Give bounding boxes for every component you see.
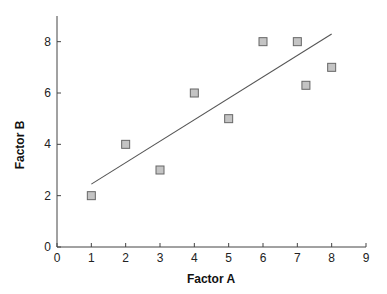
data-points [87,38,335,200]
x-axis-title: Factor A [187,272,236,286]
x-tick-label: 1 [88,251,95,265]
x-tick-label: 4 [191,251,198,265]
y-axis-title: Factor B [13,120,27,169]
y-tick-label: 0 [44,240,51,254]
x-tick-label: 3 [157,251,164,265]
scatter-chart: 012345678902468 Factor A Factor B [0,0,387,294]
trend-line [91,34,331,184]
regression-line [91,34,331,184]
x-tick-label: 2 [122,251,129,265]
data-point-marker [259,38,267,46]
data-point-marker [328,63,336,71]
y-tick-label: 4 [44,137,51,151]
x-tick-label: 8 [328,251,335,265]
x-tick-label: 7 [294,251,301,265]
data-point-marker [156,166,164,174]
x-tick-label: 6 [260,251,267,265]
x-tick-label: 9 [363,251,370,265]
x-tick-label: 5 [225,251,232,265]
y-tick-label: 6 [44,86,51,100]
axes: 012345678902468 [44,16,369,265]
y-tick-label: 2 [44,189,51,203]
data-point-marker [190,89,198,97]
data-point-marker [225,115,233,123]
data-point-marker [87,192,95,200]
data-point-marker [293,38,301,46]
data-point-marker [302,81,310,89]
y-tick-label: 8 [44,35,51,49]
data-point-marker [122,140,130,148]
x-tick-label: 0 [54,251,61,265]
